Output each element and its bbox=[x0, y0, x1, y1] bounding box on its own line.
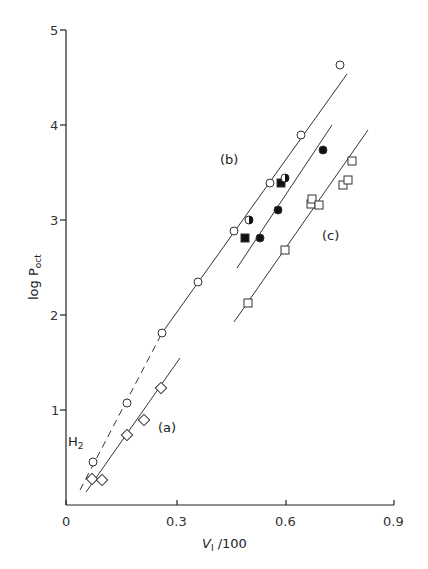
y-tick-4: 4 bbox=[50, 118, 58, 133]
y-tick-5: 5 bbox=[50, 23, 58, 38]
x-ticks bbox=[66, 500, 394, 505]
label-b: (b) bbox=[220, 152, 238, 167]
x-tick-0.6: 0.6 bbox=[275, 514, 296, 529]
y-axis-label: log Poct bbox=[26, 254, 43, 300]
label-c: (c) bbox=[322, 228, 339, 243]
y-tick-3: 3 bbox=[50, 213, 58, 228]
series-filled-circles bbox=[256, 146, 327, 242]
x-tick-0.3: 0.3 bbox=[166, 514, 187, 529]
chart: 5 4 3 2 1 0 0.3 0.6 0.9 log Poct VI /100… bbox=[0, 0, 428, 569]
x-tick-0.9: 0.9 bbox=[383, 514, 404, 529]
x-tick-0: 0 bbox=[62, 514, 70, 529]
y-ticks bbox=[60, 30, 66, 410]
series-a-diamonds bbox=[86, 382, 166, 485]
fit-lines bbox=[80, 74, 368, 492]
label-h2: H2 bbox=[68, 434, 84, 451]
x-axis-label: VI /100 bbox=[202, 536, 247, 553]
y-tick-2: 2 bbox=[50, 308, 58, 323]
y-tick-1: 1 bbox=[51, 403, 59, 418]
series-b-open-circles bbox=[89, 61, 344, 466]
label-a: (a) bbox=[158, 420, 176, 435]
